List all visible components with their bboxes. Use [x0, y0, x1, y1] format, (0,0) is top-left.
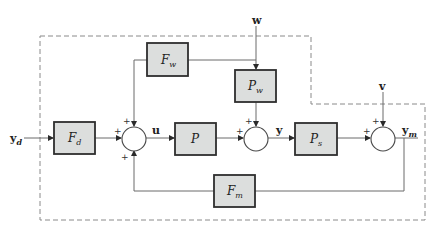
- sum2-sign-top: +: [245, 116, 253, 126]
- signal-yd: yd: [9, 132, 22, 147]
- signal-y: y: [275, 124, 283, 137]
- sum2-sign-left: +: [236, 126, 244, 136]
- block-Fd: Fd: [54, 122, 95, 154]
- summing-junction-2: [244, 127, 268, 151]
- summing-junction-1: [122, 127, 146, 151]
- sum1-sign-left: +: [114, 126, 122, 136]
- block-Ps: Ps: [295, 123, 337, 155]
- sum3-sign-top: +: [372, 116, 380, 126]
- signal-v: v: [378, 80, 386, 93]
- block-diagram: + + + + + + + Fd Fw P Pw Ps Fm yd u y ym…: [0, 0, 442, 234]
- signal-ym: ym: [401, 124, 417, 139]
- signal-w: w: [251, 14, 262, 27]
- summing-junction-3: [371, 127, 395, 151]
- sum1-sign-bottom: +: [121, 152, 129, 162]
- sum3-sign-left: +: [363, 126, 371, 136]
- block-Fm: Fm: [214, 175, 255, 207]
- block-Pw: Pw: [235, 70, 276, 102]
- wires: [24, 26, 418, 191]
- sum1-sign-top: +: [123, 116, 131, 126]
- block-P: P: [175, 123, 216, 155]
- signal-u: u: [152, 124, 160, 137]
- svg-text:P: P: [190, 132, 200, 146]
- block-Fw: Fw: [147, 43, 188, 76]
